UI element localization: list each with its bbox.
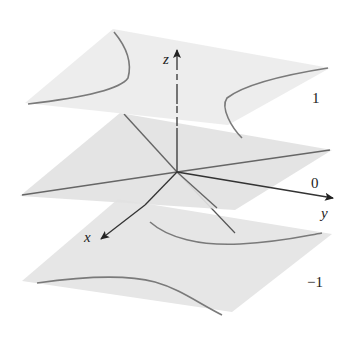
y-axis-label: y xyxy=(319,205,328,221)
level-label-0: 0 xyxy=(311,175,319,191)
x-axis-label: x xyxy=(83,229,91,245)
level-label-1: 1 xyxy=(312,90,320,106)
plane-level-minus-1 xyxy=(22,199,332,315)
plane-level-0 xyxy=(20,113,332,210)
level-label-minus-1: −1 xyxy=(307,274,323,290)
level-surfaces-diagram: z y x 1 0 −1 xyxy=(0,0,348,338)
z-axis-label: z xyxy=(162,51,169,67)
